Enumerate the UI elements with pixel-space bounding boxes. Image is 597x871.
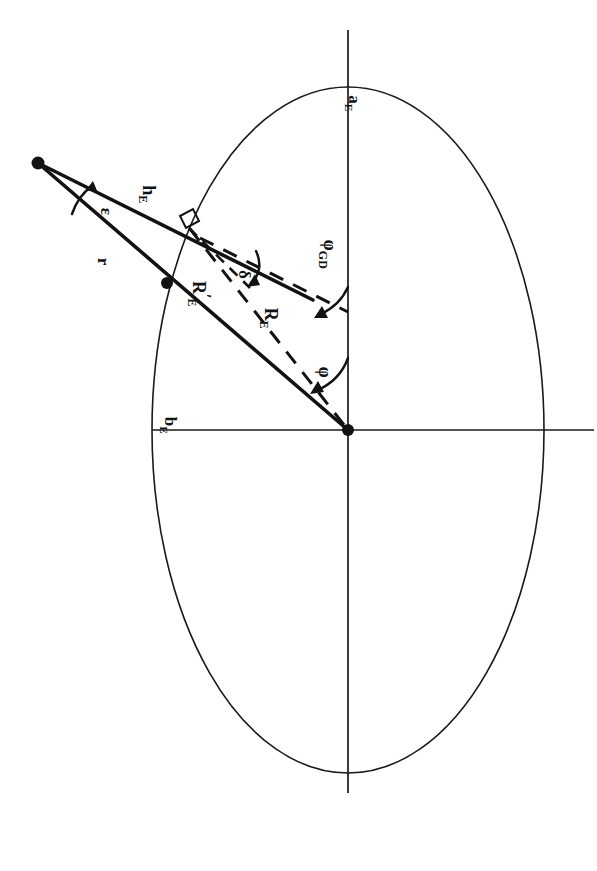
- label-delta-base: δ: [235, 270, 254, 279]
- label-height-sub: E: [136, 195, 150, 203]
- geometry-diagram: [0, 0, 597, 871]
- label-height: hE: [136, 185, 158, 203]
- observer-point-dot: [32, 157, 45, 170]
- label-geocentric-latitude: φ: [316, 366, 334, 377]
- label-geocentric-latitude-base: φ: [315, 366, 335, 377]
- label-height-base: h: [139, 185, 159, 195]
- label-earth-radius-prime-base: R: [189, 281, 209, 294]
- earth-center-dot: [342, 424, 354, 436]
- label-geodetic-latitude: φGD: [316, 240, 338, 269]
- label-earth-radius-sub: E: [257, 321, 271, 329]
- label-semi-major-sub: E: [343, 104, 355, 112]
- label-slant-range: r: [95, 258, 112, 266]
- label-geodetic-latitude-base: φ: [320, 240, 340, 251]
- label-semi-minor-axis: bE: [158, 417, 179, 434]
- label-earth-radius-prime-sub: E: [185, 298, 199, 306]
- label-elevation-angle-base: ε: [97, 208, 116, 215]
- label-semi-major-axis: aE: [343, 95, 364, 111]
- label-earth-radius: RE: [257, 308, 279, 329]
- label-earth-radius-base: R: [261, 308, 281, 321]
- figure-root: aE bE hE r ε R′E RE δ φGD φ: [0, 0, 597, 871]
- label-semi-minor-sub: E: [158, 426, 170, 434]
- surface-point-dot: [161, 277, 173, 289]
- label-earth-radius-prime: R′E: [185, 281, 212, 307]
- label-delta: δ: [236, 270, 253, 279]
- label-geodetic-latitude-sub: GD: [316, 251, 330, 269]
- label-slant-range-base: r: [94, 258, 113, 266]
- label-semi-major-base: a: [345, 95, 364, 104]
- label-elevation-angle: ε: [98, 208, 115, 215]
